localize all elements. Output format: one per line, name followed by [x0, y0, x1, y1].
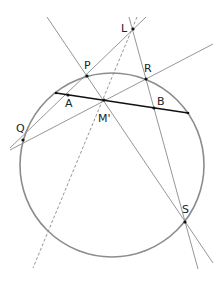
- point-B: [152, 106, 155, 109]
- label-R: R: [144, 62, 152, 75]
- points: [21, 27, 189, 223]
- label-Q: Q: [16, 122, 25, 135]
- circle: [20, 73, 204, 257]
- label-Mprime: M': [98, 112, 111, 125]
- line-LM-dashed: [33, 17, 137, 268]
- line-LS: [129, 17, 198, 269]
- line-PS: [47, 17, 213, 263]
- chord-endpoint-2: [187, 112, 190, 115]
- chord-AB: [56, 93, 188, 113]
- chord-endpoint-1: [55, 92, 58, 95]
- construction-lines: [10, 17, 213, 269]
- label-B: B: [157, 95, 165, 108]
- label-A: A: [65, 97, 73, 110]
- line-QR: [10, 44, 213, 150]
- line-QL: [10, 17, 146, 148]
- label-S: S: [182, 203, 189, 216]
- label-L: L: [121, 22, 128, 35]
- point-P: [85, 74, 88, 77]
- point-R: [144, 77, 147, 80]
- point-L: [131, 27, 134, 30]
- point-S: [183, 220, 186, 223]
- point-labels: LPRAM'BQS: [16, 22, 189, 216]
- point-Mprime: [102, 98, 105, 101]
- label-P: P: [84, 59, 91, 72]
- point-Q: [21, 138, 24, 141]
- geometry-diagram: LPRAM'BQS: [0, 0, 222, 281]
